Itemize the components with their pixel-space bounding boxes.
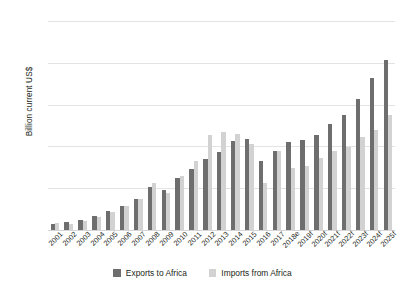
bar-group: [62, 21, 76, 230]
x-axis-tick: 2024f: [367, 231, 381, 263]
x-axis-tick: 2004: [90, 231, 104, 263]
legend-swatch-exports-icon: [113, 269, 121, 277]
bar-imports: [388, 115, 392, 230]
bar-group: [159, 21, 173, 230]
x-axis-tick: 2009: [159, 231, 173, 263]
x-axis-tick: 2025f: [381, 231, 395, 263]
bar-imports: [166, 193, 170, 230]
legend-item-imports: Imports from Africa: [209, 268, 292, 278]
x-axis-tick: 2012: [201, 231, 215, 263]
bar-group: [256, 21, 270, 230]
x-axis-tick: 2020f: [312, 231, 326, 263]
legend-label-imports: Imports from Africa: [221, 268, 291, 278]
bar-imports: [152, 183, 156, 230]
bar-group: [187, 21, 201, 230]
bar-imports: [291, 168, 295, 230]
x-axis-tick: 2018e: [284, 231, 298, 263]
bar-imports: [249, 144, 253, 230]
bar-group: [298, 21, 312, 230]
x-axis-tick-labels: 2001200220032004200520062007200820092010…: [48, 231, 395, 263]
bar-group: [242, 21, 256, 230]
x-axis-tick: 2014: [228, 231, 242, 263]
bar-imports: [194, 161, 198, 230]
legend-item-exports: Exports to Africa: [113, 268, 186, 278]
bar-group: [312, 21, 326, 230]
bar-group: [353, 21, 367, 230]
bar-chart: Billion current US$ 050100150200250 2001…: [0, 0, 405, 290]
bar-group: [270, 21, 284, 230]
x-axis-tick: 2007: [131, 231, 145, 263]
bar-imports: [235, 134, 239, 230]
bar-series-container: [48, 21, 395, 230]
x-axis-tick: 2015: [242, 231, 256, 263]
bar-group: [90, 21, 104, 230]
x-axis-tick: 2010: [173, 231, 187, 263]
bar-imports: [346, 147, 350, 230]
bar-group: [131, 21, 145, 230]
x-axis-tick: 2023f: [353, 231, 367, 263]
bar-imports: [277, 151, 281, 230]
x-axis-tick: 2013: [215, 231, 229, 263]
x-axis-tick: 2017: [270, 231, 284, 263]
bar-imports: [138, 199, 142, 230]
x-axis-tick: 2021f: [326, 231, 340, 263]
bar-imports: [319, 158, 323, 230]
bar-group: [228, 21, 242, 230]
bar-group: [326, 21, 340, 230]
plot-area: 050100150200250: [48, 21, 395, 230]
x-axis-tick: 2005: [104, 231, 118, 263]
bar-imports: [97, 217, 101, 230]
bar-imports: [180, 176, 184, 230]
bar-imports: [208, 135, 212, 230]
bar-imports: [374, 130, 378, 230]
bar-imports: [332, 151, 336, 230]
bar-group: [104, 21, 118, 230]
bar-group: [173, 21, 187, 230]
bar-group: [201, 21, 215, 230]
x-axis-tick: 2008: [145, 231, 159, 263]
bar-imports: [83, 221, 87, 230]
bar-group: [215, 21, 229, 230]
bar-group: [117, 21, 131, 230]
chart-legend: Exports to Africa Imports from Africa: [0, 268, 405, 278]
legend-swatch-imports-icon: [209, 269, 217, 277]
legend-label-exports: Exports to Africa: [126, 268, 187, 278]
x-axis-tick: 2016: [256, 231, 270, 263]
bar-group: [284, 21, 298, 230]
bar-imports: [221, 132, 225, 230]
y-axis-title: Billion current US$: [25, 27, 34, 177]
x-axis-tick: 2001: [48, 231, 62, 263]
x-axis-tick: 2003: [76, 231, 90, 263]
bar-group: [76, 21, 90, 230]
bar-imports: [360, 137, 364, 230]
bar-group: [48, 21, 62, 230]
bar-imports: [124, 206, 128, 230]
bar-group: [145, 21, 159, 230]
bar-group: [339, 21, 353, 230]
x-axis-tick: 2019f: [298, 231, 312, 263]
x-axis-tick: 2006: [117, 231, 131, 263]
bar-imports: [305, 166, 309, 230]
bar-imports: [263, 183, 267, 230]
x-axis-tick: 2011: [187, 231, 201, 263]
bar-imports: [110, 212, 114, 230]
bar-group: [381, 21, 395, 230]
x-axis-tick: 2002: [62, 231, 76, 263]
x-axis-tick-label: 2025f: [379, 229, 398, 248]
x-axis-tick: 2022f: [339, 231, 353, 263]
bar-group: [367, 21, 381, 230]
